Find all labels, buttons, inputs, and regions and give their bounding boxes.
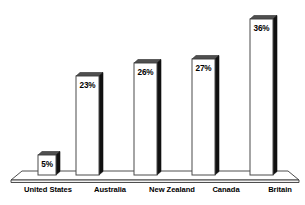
bar-canada [192,59,215,175]
bar-group-australia: 23% [76,73,103,176]
bar-group-united-states: 5% [38,152,60,176]
category-label-britain: Britain [268,185,292,194]
bar-value-united-states: 5% [41,160,53,169]
bar-shadow-britain [273,16,277,176]
bar-value-australia: 23% [79,81,96,90]
bar-value-new-zealand: 26% [137,68,154,77]
category-label-canada: Canada [212,185,240,194]
bar-shadow-australia [99,73,103,176]
bar-cap-new-zealand [134,60,161,64]
bar-value-britain: 36% [253,24,270,33]
bar-value-canada: 27% [195,64,212,73]
bar-group-britain: 36% [250,16,277,176]
bar-group-new-zealand: 26% [134,60,161,176]
platform-front-edge [11,180,299,183]
bar-group-canada: 27% [192,56,219,176]
bar-cap-canada [192,56,219,60]
bar-britain [250,19,273,175]
bar-shadow-united-states [56,152,60,176]
bar-shadow-canada [215,56,219,176]
bar-new-zealand [134,63,157,175]
category-axis-labels: United States Australia New Zealand Cana… [24,185,292,194]
bar-cap-australia [76,73,103,77]
category-label-united-states: United States [24,185,72,194]
category-label-australia: Australia [94,185,127,194]
bar-australia [76,76,99,175]
bar-shadow-new-zealand [157,60,161,176]
bar-cap-britain [250,16,277,20]
bar-chart: 5% 23% 26% 27% 36% [0,0,305,205]
chart-canvas: 5% 23% 26% 27% 36% [0,0,305,205]
category-label-new-zealand: New Zealand [149,185,195,194]
